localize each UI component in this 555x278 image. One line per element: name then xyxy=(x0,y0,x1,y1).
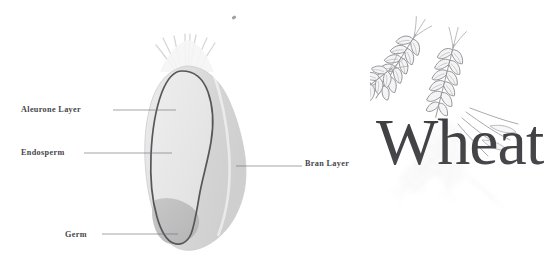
label-endosperm: Endosperm xyxy=(21,148,65,157)
wheat-logo: Wheat xyxy=(370,0,555,278)
label-aleurone-layer: Aleurone Layer xyxy=(21,105,81,114)
label-bran-layer: Bran Layer xyxy=(305,159,349,168)
figure-canvas: Wheat Aleurone Layer Endosperm Germ Bran… xyxy=(0,0,555,278)
wheat-kernel-diagram xyxy=(0,0,380,278)
logo-wordmark: Wheat xyxy=(376,105,544,178)
label-germ: Germ xyxy=(65,230,87,239)
